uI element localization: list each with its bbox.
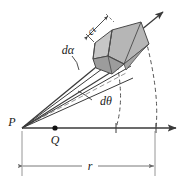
horizontal-axis bbox=[22, 123, 176, 133]
scattering-volume-diagram: cτ dα dθ P Q r bbox=[0, 0, 184, 183]
point-q-marker bbox=[52, 125, 57, 130]
dalpha-leader bbox=[72, 56, 79, 70]
figure-container: cτ dα dθ P Q r bbox=[0, 0, 184, 183]
ctau-tick-right bbox=[106, 14, 114, 22]
cone-axis-dashed bbox=[22, 72, 128, 128]
point-q-label: Q bbox=[51, 133, 60, 147]
theta-upper-ray bbox=[22, 66, 131, 128]
volume-top-face bbox=[108, 22, 149, 64]
radius-dimension: r bbox=[22, 131, 155, 176]
dtheta-label: dθ bbox=[100, 94, 112, 108]
dalpha-label: dα bbox=[62, 43, 75, 57]
radius-label: r bbox=[88, 159, 93, 173]
theta-lower-ray bbox=[22, 78, 133, 128]
point-p-label: P bbox=[7, 115, 16, 129]
scattering-volume bbox=[93, 22, 149, 74]
